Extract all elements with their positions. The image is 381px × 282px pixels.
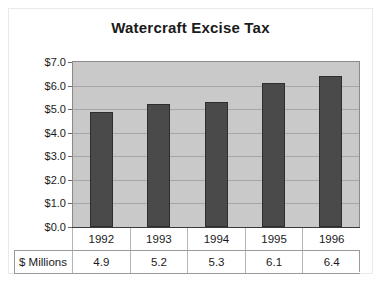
bar-series xyxy=(73,62,359,227)
year-cell: 1996 xyxy=(302,228,360,250)
table-row-values: $ Millions 4.95.25.36.16.4 xyxy=(14,250,360,274)
plot-area xyxy=(72,61,360,228)
chart-figure: Watercraft Excise Tax $7.0$6.0$5.0$4.0$3… xyxy=(0,0,381,282)
value-cell: 6.1 xyxy=(245,251,303,273)
chart-title: Watercraft Excise Tax xyxy=(0,19,381,36)
year-cell: 1992 xyxy=(72,228,130,250)
table-border-right xyxy=(359,250,360,272)
year-cell: 1994 xyxy=(187,228,245,250)
year-cell: 1995 xyxy=(245,228,303,250)
value-cell: 5.2 xyxy=(130,251,188,273)
bar xyxy=(319,76,342,227)
year-cell: 1993 xyxy=(130,228,188,250)
bar xyxy=(262,83,285,227)
value-cell: 4.9 xyxy=(72,251,130,273)
value-cell: 6.4 xyxy=(302,251,360,273)
bar xyxy=(90,112,113,228)
value-cell: 5.3 xyxy=(187,251,245,273)
y-axis-tick-marks xyxy=(0,61,72,228)
bar xyxy=(147,104,170,227)
series-label-cell: $ Millions xyxy=(14,251,72,273)
data-table: 19921993199419951996 $ Millions 4.95.25.… xyxy=(14,228,360,272)
table-border-left xyxy=(14,250,15,272)
bar xyxy=(205,102,228,227)
table-row-years: 19921993199419951996 xyxy=(14,228,360,250)
years-row-label xyxy=(14,228,72,250)
